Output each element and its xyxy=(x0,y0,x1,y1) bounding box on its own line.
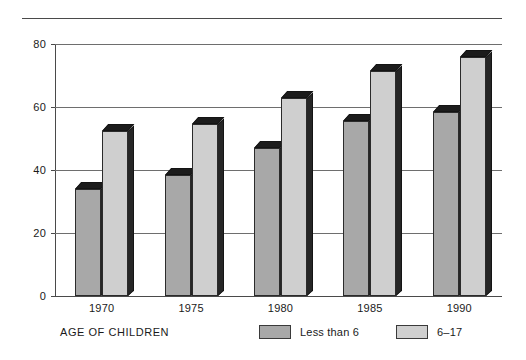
bar-front-face xyxy=(433,112,459,296)
y-tick-mark-60 xyxy=(51,107,55,108)
bar-chart-figure: 020406080 19701975198019851990 AGE OF CH… xyxy=(0,0,526,360)
x-tick-label-1970: 1970 xyxy=(89,302,114,314)
bar-front-face xyxy=(254,148,280,296)
dark-gray-swatch xyxy=(259,325,291,339)
bar-side-face xyxy=(218,119,224,296)
legend-label-less-than-6: Less than 6 xyxy=(300,326,359,338)
bar-front-face xyxy=(343,121,369,296)
bar-side-face xyxy=(396,65,402,296)
x-tick-label-1990: 1990 xyxy=(447,302,472,314)
legend-item-6-17: 6–17 xyxy=(396,325,462,339)
y-tick-mark-20 xyxy=(51,233,55,234)
bar-1990-series-2 xyxy=(460,57,486,296)
bar-top-face xyxy=(460,50,492,57)
bar-front-face xyxy=(102,131,128,296)
bar-1980-series-2 xyxy=(281,98,307,296)
y-tick-mark-0 xyxy=(51,296,55,297)
top-horizontal-rule xyxy=(22,18,502,19)
y-tick-mark-80 xyxy=(51,44,55,45)
bar-1985-series-1 xyxy=(343,121,369,296)
light-gray-swatch xyxy=(396,325,428,339)
x-axis-title: AGE OF CHILDREN xyxy=(60,326,169,338)
bar-1970-series-1 xyxy=(75,189,101,296)
bar-side-face xyxy=(307,92,313,296)
legend-label-6-17: 6–17 xyxy=(437,326,462,338)
bar-side-face xyxy=(128,125,134,296)
bar-front-face xyxy=(75,189,101,296)
y-tick-label-20: 20 xyxy=(33,227,46,239)
gridline-0 xyxy=(55,296,502,297)
bar-front-face xyxy=(460,57,486,296)
bar-front-face xyxy=(370,71,396,296)
bar-1975-series-1 xyxy=(165,175,191,296)
bar-front-face xyxy=(165,175,191,296)
bar-1985-series-2 xyxy=(370,71,396,296)
bar-1990-series-1 xyxy=(433,112,459,296)
x-tick-label-1975: 1975 xyxy=(178,302,203,314)
x-tick-label-1985: 1985 xyxy=(357,302,382,314)
plot-area: 020406080 19701975198019851990 xyxy=(55,44,502,296)
x-tick-label-1980: 1980 xyxy=(268,302,293,314)
bar-side-face xyxy=(486,51,492,296)
y-tick-label-80: 80 xyxy=(33,38,46,50)
bar-1980-series-1 xyxy=(254,148,280,296)
y-tick-label-0: 0 xyxy=(40,290,46,302)
bar-1975-series-2 xyxy=(192,124,218,296)
bar-front-face xyxy=(192,124,218,296)
legend-item-less-than-6: Less than 6 xyxy=(259,325,359,339)
gridline-80 xyxy=(55,44,502,45)
y-tick-label-60: 60 xyxy=(33,101,46,113)
bar-front-face xyxy=(281,98,307,296)
y-tick-label-40: 40 xyxy=(33,164,46,176)
bar-1970-series-2 xyxy=(102,131,128,296)
y-tick-mark-40 xyxy=(51,170,55,171)
